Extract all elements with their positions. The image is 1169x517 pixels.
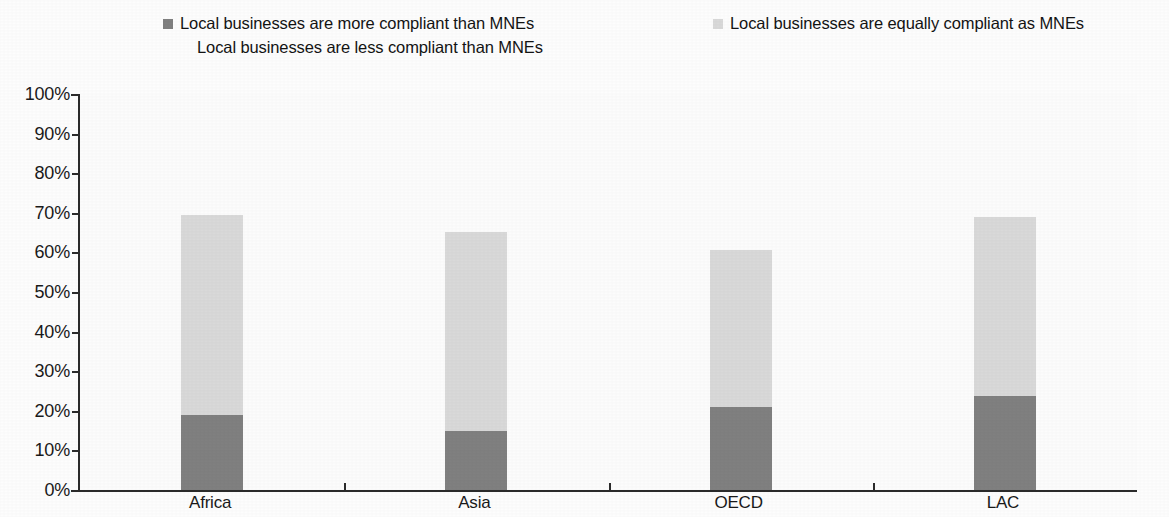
y-axis-tick-mark <box>72 371 80 373</box>
y-axis-labels: 100%90%80%70%60%50%40%30%20%10%0% <box>0 94 70 490</box>
legend-swatch-equally-compliant <box>713 19 723 29</box>
legend-item-equally-compliant: Local businesses are equally compliant a… <box>713 14 1084 33</box>
y-axis-tick-label: 50% <box>0 282 70 303</box>
y-axis-tick-mark <box>72 252 80 254</box>
y-axis-tick-label: 40% <box>0 321 70 342</box>
chart-legend: Local businesses are more compliant than… <box>0 0 1169 80</box>
y-axis-tick-label: 0% <box>0 480 70 501</box>
y-axis-tick-mark <box>71 490 80 492</box>
legend-label-equally-compliant: Local businesses are equally compliant a… <box>730 14 1084 33</box>
bar-segment[interactable] <box>710 250 772 407</box>
plot-area <box>78 94 1137 492</box>
stacked-bar[interactable] <box>445 232 507 490</box>
y-axis-tick-label: 30% <box>0 361 70 382</box>
legend-swatch-more-compliant <box>163 19 173 29</box>
bar-segment[interactable] <box>445 232 507 431</box>
y-axis-tick-label: 10% <box>0 440 70 461</box>
y-axis-tick-label: 70% <box>0 202 70 223</box>
x-axis-category-label: OECD <box>714 493 762 513</box>
y-axis-tick-mark <box>72 173 80 175</box>
x-axis-category-label: LAC <box>987 493 1019 513</box>
y-axis-tick-mark <box>72 411 80 413</box>
legend-swatch-less-compliant <box>163 43 173 53</box>
stacked-bar-chart-figure: Local businesses are more compliant than… <box>0 0 1169 517</box>
bar-group <box>80 94 344 490</box>
y-axis-tick-label: 100% <box>0 84 70 105</box>
stacked-bar[interactable] <box>710 250 772 490</box>
x-axis-tick-mark <box>873 483 875 490</box>
y-axis-tick-label: 20% <box>0 400 70 421</box>
x-axis-category-label: Africa <box>189 493 231 513</box>
bar-segment[interactable] <box>974 396 1036 490</box>
x-axis-tick-mark <box>609 483 611 490</box>
bar-segment[interactable] <box>181 415 243 490</box>
bar-group <box>344 94 608 490</box>
y-axis-tick-mark <box>72 332 80 334</box>
legend-item-more-compliant: Local businesses are more compliant than… <box>163 14 534 33</box>
y-axis-tick-label: 60% <box>0 242 70 263</box>
stacked-bar[interactable] <box>181 215 243 490</box>
bar-group <box>609 94 873 490</box>
y-axis-tick-label: 80% <box>0 163 70 184</box>
stacked-bar[interactable] <box>974 217 1036 490</box>
x-axis-labels: AfricaAsiaOECDLAC <box>78 493 1135 517</box>
legend-label-less-compliant: Local businesses are less compliant than… <box>197 38 543 57</box>
legend-item-less-compliant: Local businesses are less compliant than… <box>163 38 543 57</box>
bar-segment[interactable] <box>445 431 507 490</box>
bar-segment[interactable] <box>181 215 243 415</box>
y-axis-tick-mark <box>72 134 80 136</box>
x-axis-tick-mark <box>344 483 346 490</box>
y-axis-tick-mark <box>71 94 80 96</box>
y-axis-tick-label: 90% <box>0 123 70 144</box>
x-axis-category-label: Asia <box>458 493 490 513</box>
bar-segment[interactable] <box>974 217 1036 396</box>
bar-segment[interactable] <box>710 407 772 490</box>
legend-label-more-compliant: Local businesses are more compliant than… <box>180 14 534 33</box>
y-axis-tick-mark <box>72 292 80 294</box>
bar-series-container <box>80 94 1137 490</box>
y-axis-tick-mark <box>72 450 80 452</box>
y-axis-tick-mark <box>72 213 80 215</box>
bar-group <box>873 94 1137 490</box>
